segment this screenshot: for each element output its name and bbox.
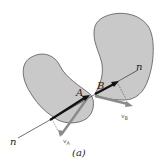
label-n-upper: n [136, 61, 142, 72]
label-point-b: B [96, 80, 104, 91]
figure-caption: (a) [72, 147, 86, 158]
velocity-b-arrowhead [125, 101, 133, 107]
projection-a [52, 119, 58, 131]
label-va: vA [63, 137, 71, 146]
label-vb: vB [121, 112, 129, 121]
label-point-a: A [75, 87, 83, 98]
label-n-lower: n [10, 136, 16, 147]
collision-diagram: n n A B vA vB (a) [0, 0, 161, 166]
